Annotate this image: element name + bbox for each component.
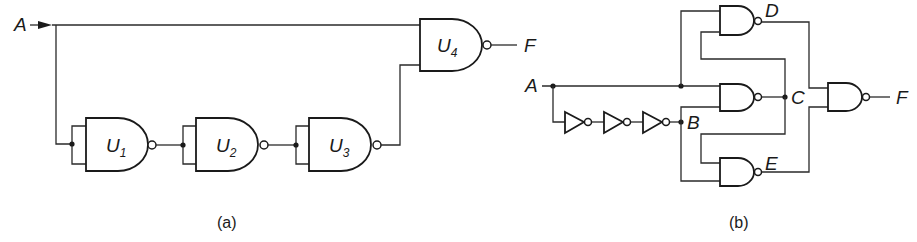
gate-e: [720, 158, 762, 186]
inverter-bubble: [148, 141, 156, 149]
gate-d: [720, 6, 762, 35]
arrow-icon: [38, 21, 52, 29]
caption-b: (b): [729, 214, 749, 231]
wire-a-to-inverters: [553, 86, 565, 122]
inverter-bubble: [260, 141, 268, 149]
input-label-a: A: [13, 14, 27, 35]
nand-body: [720, 6, 754, 35]
gate-u3: U3: [293, 118, 381, 171]
logic-diagram: A U1 U2 U3: [0, 0, 917, 242]
inverter-bubble: [663, 119, 670, 126]
gate-c: [720, 84, 762, 111]
inverter-bubble: [483, 41, 491, 49]
junction-dot: [293, 142, 298, 147]
nand-body: [420, 19, 482, 71]
node-label-d: D: [765, 0, 779, 21]
panel-a: A U1 U2 U3: [13, 14, 537, 231]
wire-u3-to-u4: [381, 65, 420, 145]
nand-body: [828, 83, 862, 111]
nand-body: [720, 158, 754, 186]
inverter-bubble: [624, 119, 631, 126]
output-label-f: F: [896, 87, 909, 108]
output-label-f: F: [524, 35, 537, 56]
inverter-bubble: [373, 141, 381, 149]
junction-dot: [69, 141, 74, 146]
gate-u2: U2: [180, 118, 268, 171]
gate-f: [828, 83, 870, 111]
inverter-2: [604, 112, 631, 133]
nand-body: [720, 84, 754, 111]
node-label-c: C: [791, 87, 805, 108]
wire-d-to-output: [762, 22, 828, 88]
buffer-triangle: [643, 112, 662, 133]
caption-a: (a): [217, 214, 237, 231]
inverter-bubble: [755, 18, 762, 25]
wire-a-to-u1: [56, 25, 72, 144]
inverter-bubble: [863, 94, 870, 101]
buffer-triangle: [565, 112, 584, 133]
node-label-b: B: [687, 112, 700, 133]
inverter-bubble: [755, 169, 762, 176]
input-label-a: A: [524, 75, 538, 96]
junction-dot: [180, 142, 185, 147]
gate-u4: U4: [420, 19, 491, 71]
buffer-triangle: [604, 112, 623, 133]
inverter-bubble: [755, 94, 762, 101]
gate-u1: U1: [69, 118, 156, 171]
panel-b: A B D: [524, 0, 909, 231]
inverter-bubble: [585, 119, 592, 126]
inverter-3: [643, 112, 670, 133]
node-label-e: E: [765, 153, 778, 174]
inverter-1: [565, 112, 592, 133]
